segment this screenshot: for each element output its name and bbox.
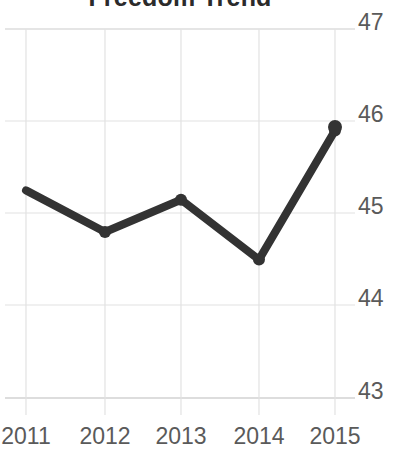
- chart-container: Freedom Trend: [0, 0, 411, 458]
- data-point-2012: [175, 194, 187, 206]
- vertical-gridlines: [26, 29, 335, 415]
- y-tick-label-43: 43: [358, 380, 406, 403]
- x-tick-label-2013: 2013: [141, 424, 221, 448]
- y-tick-label-44: 44: [358, 287, 406, 310]
- data-point-2015: [328, 120, 342, 134]
- x-tick-label-2014: 2014: [219, 424, 299, 448]
- plot-area: [0, 0, 411, 458]
- data-point-markers: [99, 120, 342, 266]
- x-tick-label-2012: 2012: [65, 424, 145, 448]
- data-point-2011: [99, 226, 111, 238]
- y-tick-label-46: 46: [358, 103, 406, 126]
- data-point-2013: [253, 254, 265, 266]
- line-chart-svg: [0, 0, 411, 458]
- y-tick-label-45: 45: [358, 195, 406, 218]
- horizontal-gridlines: [5, 29, 355, 398]
- x-tick-label-2015: 2015: [295, 424, 375, 448]
- y-tick-label-47: 47: [358, 11, 406, 34]
- x-tick-label-2011: 2011: [0, 424, 66, 448]
